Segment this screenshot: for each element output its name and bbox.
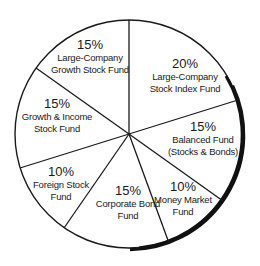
slice-name: Balanced Fund [168, 134, 238, 146]
slice-label-corporate-bond: 15% Corporate Bond Fund [96, 184, 160, 221]
slice-percent: 15% [22, 97, 92, 111]
slice-percent: 15% [51, 38, 129, 52]
slice-name: Fund [154, 206, 212, 218]
slice-label-large-company-stock-index: 20% Large-Company Stock Index Fund [150, 57, 221, 94]
slice-label-money-market: 10% Money Market Fund [154, 180, 212, 217]
slice-name: (Stocks & Bonds) [168, 146, 238, 158]
slice-name: Fund [33, 191, 89, 203]
slice-percent: 15% [168, 120, 238, 134]
slice-name: Stock Fund [22, 123, 92, 135]
slice-label-growth-income: 15% Growth & Income Stock Fund [22, 97, 92, 134]
slice-name: Foreign Stock [33, 179, 89, 191]
slice-label-large-company-growth: 15% Large-Company Growth Stock Fund [51, 38, 129, 75]
slice-percent: 10% [154, 180, 212, 194]
slice-name: Growth & Income [22, 111, 92, 123]
slice-name: Large-Company [150, 71, 221, 83]
slice-percent: 20% [150, 57, 221, 71]
slice-name: Fund [96, 210, 160, 222]
slice-name: Corporate Bond [96, 198, 160, 210]
slice-name: Large-Company [51, 52, 129, 64]
slice-percent: 10% [33, 165, 89, 179]
slice-label-balanced-fund: 15% Balanced Fund (Stocks & Bonds) [168, 120, 238, 157]
slice-name: Money Market [154, 194, 212, 206]
slice-name: Stock Index Fund [150, 83, 221, 95]
slice-percent: 15% [96, 184, 160, 198]
slice-name: Growth Stock Fund [51, 64, 129, 76]
slice-label-foreign-stock: 10% Foreign Stock Fund [33, 165, 89, 202]
